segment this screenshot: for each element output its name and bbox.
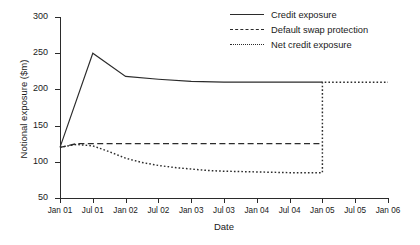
legend-label: Credit exposure (271, 10, 337, 20)
legend-label: Net credit exposure (271, 40, 352, 50)
legend-label: Default swap protection (271, 25, 368, 35)
legend-item[interactable]: Net credit exposure (230, 38, 368, 51)
series-line-2 (60, 82, 388, 173)
chart-figure: 50100150200250300 Jan 01Jul 01Jan 02Jul … (0, 0, 420, 245)
legend-swatch-dashed-icon (230, 25, 264, 34)
legend-item[interactable]: Default swap protection (230, 23, 368, 36)
series-line-0 (60, 53, 322, 147)
legend-item[interactable]: Credit exposure (230, 8, 368, 21)
legend-swatch-solid-icon (230, 10, 264, 19)
series-line-1 (60, 144, 322, 148)
legend-swatch-dotted-icon (230, 40, 264, 49)
chart-legend: Credit exposureDefault swap protectionNe… (230, 8, 368, 53)
